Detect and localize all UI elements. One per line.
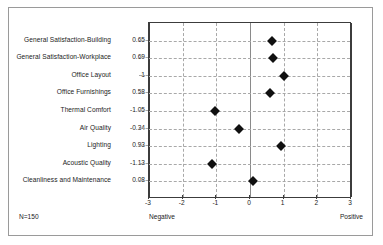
x-tick-label: -3 xyxy=(136,199,160,206)
category-row: Office Furnishings0.58 xyxy=(9,86,148,98)
x-gridline-2 xyxy=(317,23,318,197)
x-gridline-0 xyxy=(250,23,251,197)
x-tick-label: 2 xyxy=(304,199,328,206)
x-gridline-3 xyxy=(351,23,352,197)
category-label: General Satisfaction-Workplace xyxy=(16,51,111,63)
category-row: Lighting0.93 xyxy=(9,139,148,151)
data-point-marker xyxy=(268,53,278,63)
axis-positive-label: Positive xyxy=(340,213,363,220)
row-gridline xyxy=(149,41,350,42)
chart-figure: General Satisfaction-Building0.65General… xyxy=(8,7,373,236)
category-label: Office Furnishings xyxy=(57,86,111,98)
x-tick-label: 0 xyxy=(237,199,261,206)
row-gridline xyxy=(149,164,350,165)
x-gridline-1 xyxy=(284,23,285,197)
category-label: Lighting xyxy=(87,139,111,151)
x-gridline--2 xyxy=(183,23,184,197)
category-label-column: General Satisfaction-Building0.65General… xyxy=(9,22,148,198)
category-row: General Satisfaction-Workplace0.69 xyxy=(9,51,148,63)
data-point-marker xyxy=(276,141,286,151)
plot-area xyxy=(148,22,351,198)
data-point-marker xyxy=(234,124,244,134)
row-gridline xyxy=(149,129,350,130)
x-tick-label: 1 xyxy=(271,199,295,206)
category-row: General Satisfaction-Building0.65 xyxy=(9,34,148,46)
row-gridline xyxy=(149,111,350,112)
chart-footer: N=150 Negative Positive xyxy=(9,213,372,229)
x-axis-tick-labels: -3-2-10123 xyxy=(148,199,351,211)
data-point-marker xyxy=(279,71,289,81)
x-gridline--3 xyxy=(149,23,150,197)
data-point-marker xyxy=(267,36,277,46)
row-gridline xyxy=(149,93,350,94)
category-label: Thermal Comfort xyxy=(61,104,111,116)
category-label: Air Quality xyxy=(80,122,111,134)
row-gridline xyxy=(149,76,350,77)
category-label: Acoustic Quality xyxy=(63,157,111,169)
row-gridline xyxy=(149,58,350,59)
category-row: Thermal Comfort-1.05 xyxy=(9,104,148,116)
data-point-marker xyxy=(265,88,275,98)
category-row: Cleanliness and Maintenance0.08 xyxy=(9,174,148,186)
category-label: Cleanliness and Maintenance xyxy=(23,174,111,186)
category-label: Office Layout xyxy=(71,69,111,81)
x-tick-label: -1 xyxy=(203,199,227,206)
category-row: Office Layout1 xyxy=(9,69,148,81)
category-row: Air Quality-0.34 xyxy=(9,122,148,134)
category-label: General Satisfaction-Building xyxy=(24,34,111,46)
x-tick-label: 3 xyxy=(338,199,362,206)
data-point-marker xyxy=(210,106,220,116)
axis-negative-label: Negative xyxy=(149,213,175,220)
sample-size-label: N=150 xyxy=(19,213,39,220)
row-gridline xyxy=(149,146,350,147)
category-row: Acoustic Quality-1.13 xyxy=(9,157,148,169)
x-tick-label: -2 xyxy=(170,199,194,206)
